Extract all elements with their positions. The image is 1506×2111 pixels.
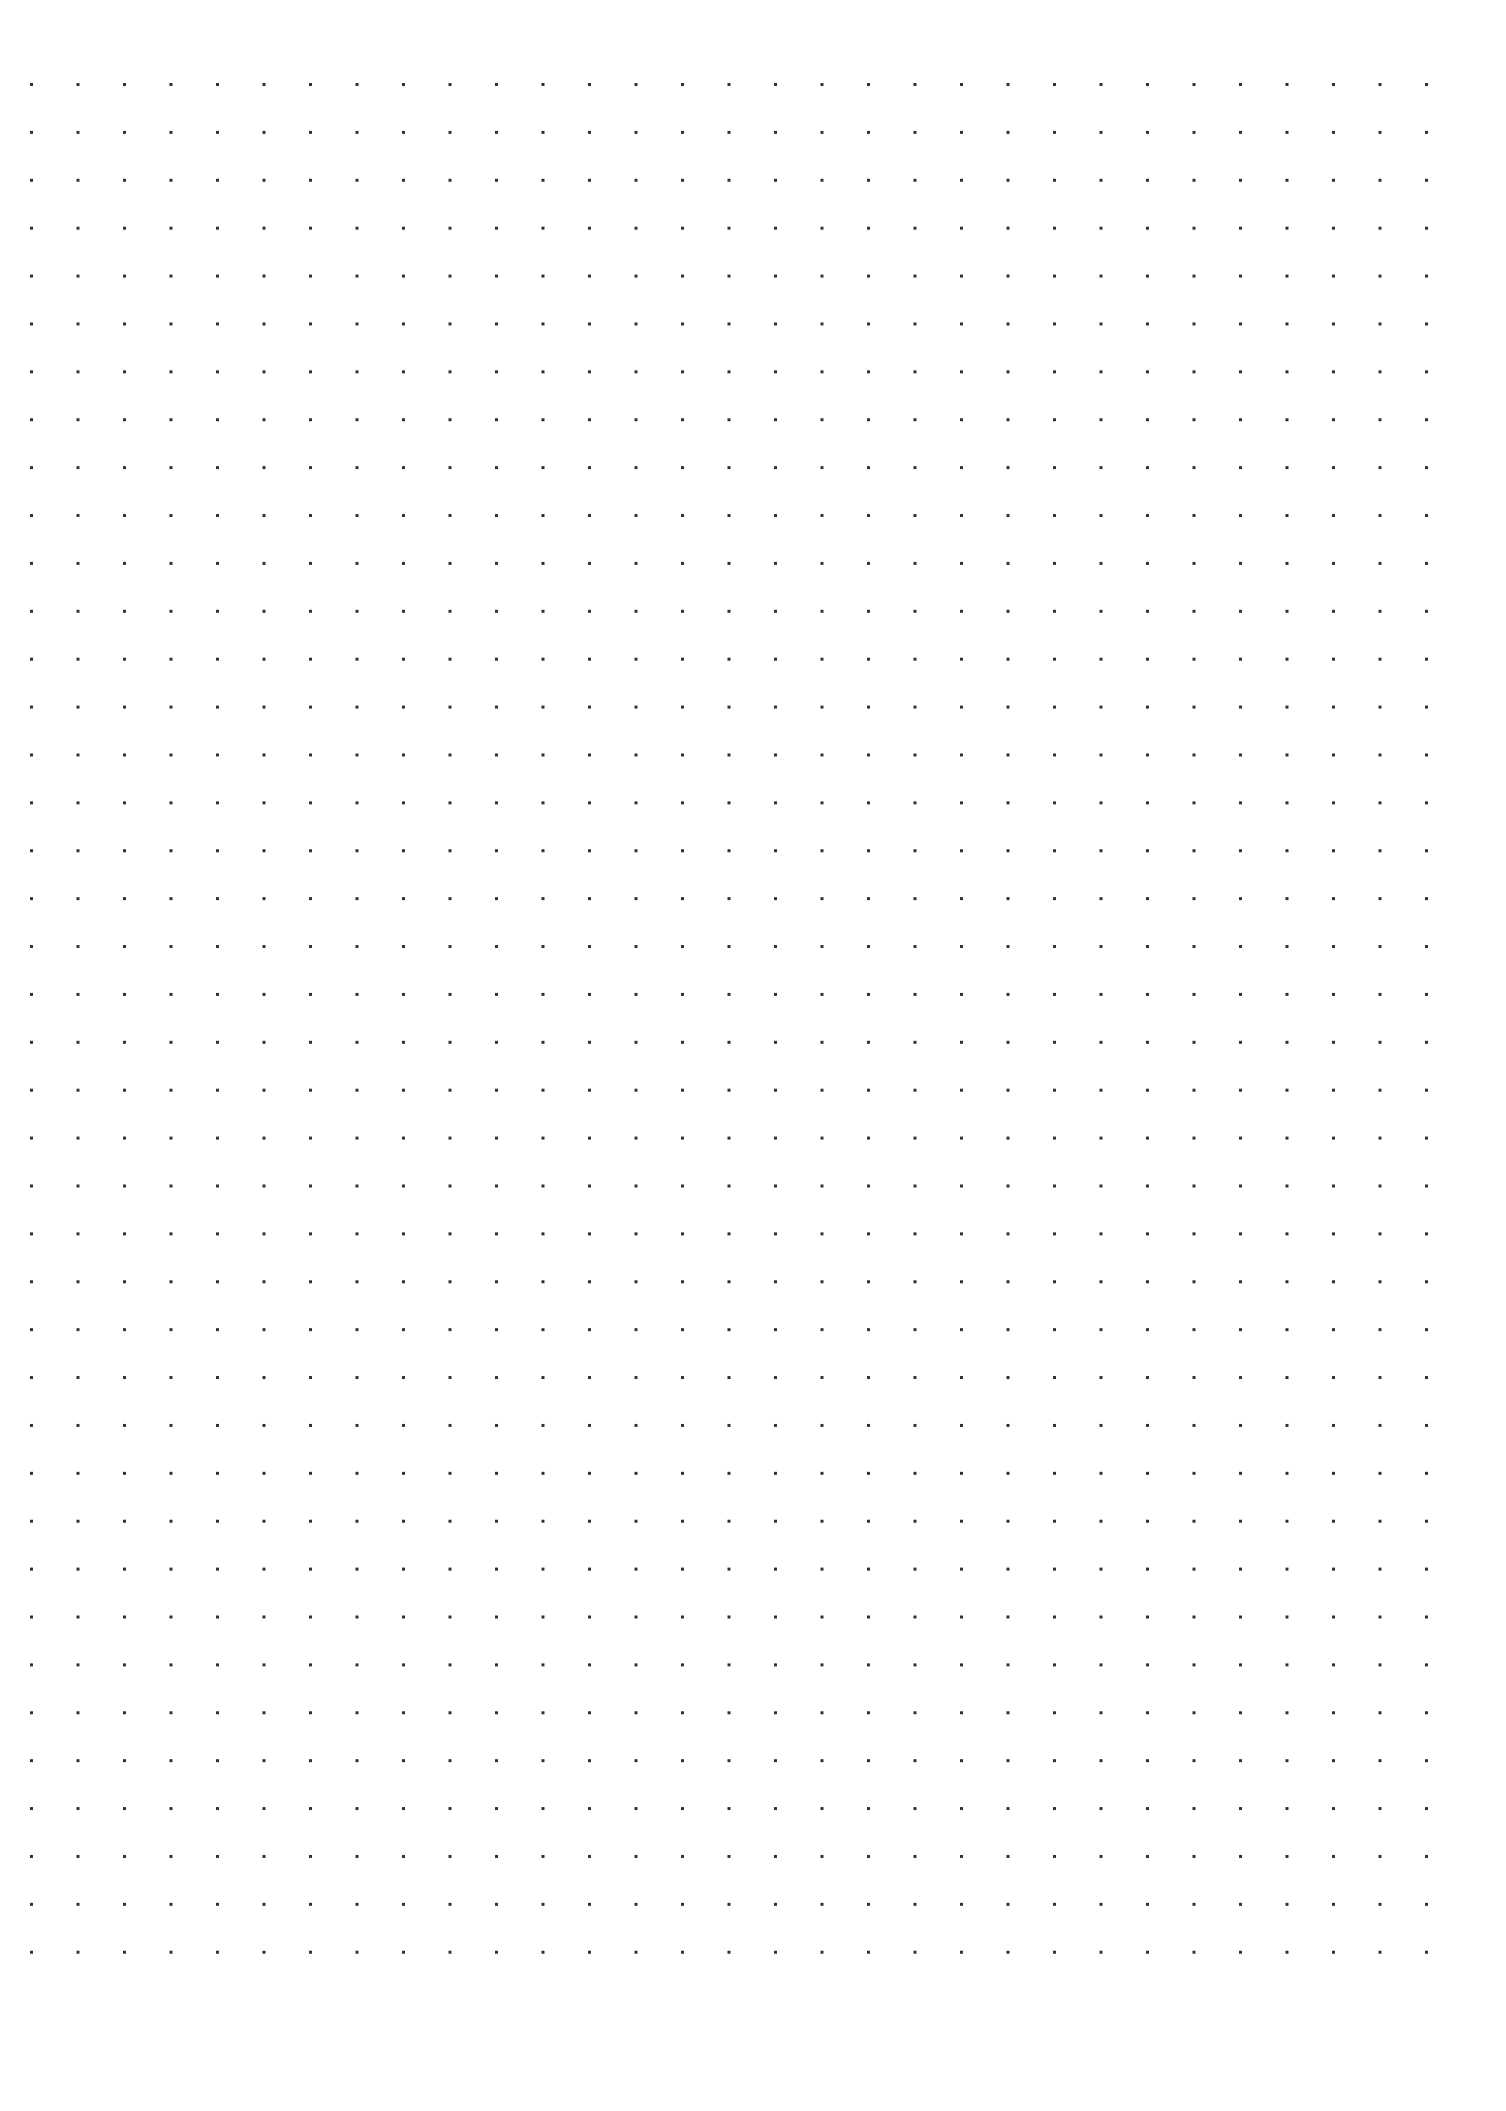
dot-grid-page [0, 0, 1506, 2111]
dot-grid [30, 83, 1428, 1954]
